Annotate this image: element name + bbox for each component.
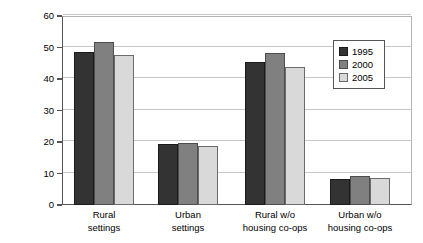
legend-label: 2005	[352, 71, 373, 84]
y-axis-tick: 60	[43, 10, 62, 22]
y-axis-tick-label: 10	[43, 168, 57, 180]
y-axis-tick-label: 30	[43, 105, 57, 117]
legend-swatch-icon	[339, 47, 348, 56]
legend-swatch-icon	[339, 73, 348, 82]
y-axis-ticks: 0102030405060	[0, 16, 62, 205]
y-axis-tick-label: 20	[43, 136, 57, 148]
y-axis-tick: 40	[43, 73, 62, 85]
x-axis-label-line: Urban w/o	[300, 209, 420, 222]
x-axis-label: Urban w/ohousing co-ops	[300, 209, 420, 234]
y-axis-tick: 20	[43, 136, 62, 148]
legend-item-1995[interactable]: 1995	[339, 45, 379, 58]
y-axis-tick: 50	[43, 42, 62, 54]
gridline	[63, 14, 411, 15]
legend-item-2000[interactable]: 2000	[339, 58, 379, 71]
legend: 199520002005	[333, 40, 385, 89]
legend-item-2005[interactable]: 2005	[339, 71, 379, 84]
bar-chart: Number of co-operatives per 100,000 popu…	[0, 0, 423, 243]
x-axis-labels: RuralsettingsUrbansettingsRural w/ohousi…	[62, 209, 412, 241]
gridline	[63, 140, 411, 141]
gridline	[63, 172, 411, 173]
legend-label: 2000	[352, 58, 373, 71]
x-axis-label-line: housing co-ops	[300, 222, 420, 235]
legend-label: 1995	[352, 45, 373, 58]
y-axis-tick-label: 60	[43, 10, 57, 22]
gridline	[63, 109, 411, 110]
y-axis-tick-label: 40	[43, 73, 57, 85]
y-axis-tick: 10	[43, 168, 62, 180]
y-axis-tick: 30	[43, 105, 62, 117]
y-axis-tick-label: 50	[43, 42, 57, 54]
legend-swatch-icon	[339, 60, 348, 69]
